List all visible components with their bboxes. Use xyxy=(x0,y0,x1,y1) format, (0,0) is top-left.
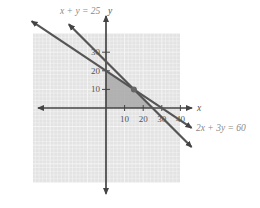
intersection-point xyxy=(131,86,137,92)
x-tick-label: 20 xyxy=(139,114,149,124)
linear-programming-graph: 10203040102030 xyx + y = 252x + 3y = 60 xyxy=(0,0,260,208)
y-axis-label: y xyxy=(107,6,113,16)
x-tick-label: 10 xyxy=(120,114,130,124)
x-axis-label: x xyxy=(196,103,202,113)
equation-label-x-plus-y: x + y = 25 xyxy=(59,6,101,16)
equation-label-2x-plus-3y: 2x + 3y = 60 xyxy=(196,123,246,133)
y-tick-label: 10 xyxy=(91,84,101,94)
